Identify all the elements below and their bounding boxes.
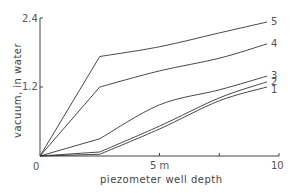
curve-labels: 12345	[271, 16, 277, 95]
curve-label-3: 3	[271, 70, 277, 81]
y-tick-label-2-4: 2.4	[22, 13, 38, 24]
curve-5	[40, 22, 267, 156]
x-tick-label-10: 10	[271, 160, 284, 171]
origin-label: 0	[33, 161, 39, 172]
x-tick-label-5: 5 m	[150, 160, 169, 171]
line-chart: 12345 0 2.4 1.2 5 m 10 piezometer well d…	[0, 0, 296, 193]
curve-2	[40, 82, 267, 156]
y-axis-title: vacuum, in water	[12, 43, 23, 138]
curve-1	[40, 87, 267, 156]
curve-label-4: 4	[271, 38, 277, 49]
axes	[40, 18, 279, 156]
curve-label-5: 5	[271, 16, 277, 27]
curves	[40, 22, 267, 156]
y-tick-label-1-2: 1.2	[22, 81, 38, 92]
x-axis-title: piezometer well depth	[100, 174, 223, 185]
ticks	[40, 18, 279, 156]
